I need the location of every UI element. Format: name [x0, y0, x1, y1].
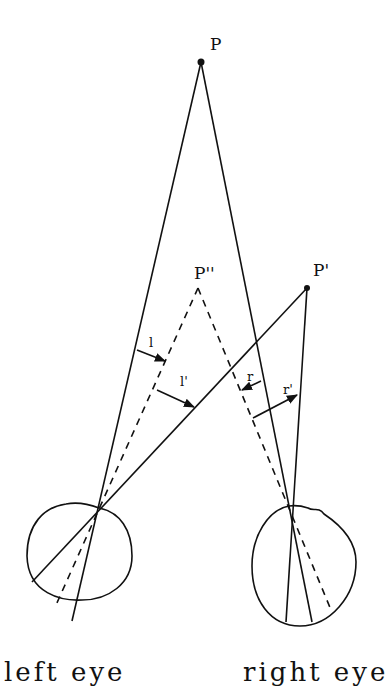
ray-pdoubleprime-left-eye	[56, 288, 198, 605]
point-p-label: P	[210, 34, 221, 54]
angle-lprime-arrow	[157, 390, 194, 407]
right-eye-label: right eye	[243, 657, 388, 687]
right-eye-outline	[252, 506, 356, 626]
angle-l-label: l	[149, 335, 153, 350]
binocular-geometry-diagram: P P'' P' l l' r r' left eye right eye	[0, 0, 388, 699]
ray-pprime-left-eye	[32, 288, 307, 582]
ray-pprime-right-eye	[286, 288, 307, 622]
point-pprime-label: P'	[313, 260, 329, 280]
angle-rprime-label: r'	[283, 382, 293, 397]
ray-p-left-eye	[72, 62, 201, 621]
angle-l-arrow	[137, 350, 165, 361]
angle-rprime-arrow	[253, 395, 297, 418]
point-pdoubleprime-label: P''	[194, 263, 215, 283]
left-eye-label: left eye	[4, 657, 126, 687]
angle-r-label: r	[247, 369, 254, 384]
point-pprime-dot	[304, 285, 310, 291]
point-p-dot	[198, 59, 205, 66]
ray-pdoubleprime-right-eye	[198, 288, 331, 610]
angle-lprime-label: l'	[180, 374, 188, 389]
